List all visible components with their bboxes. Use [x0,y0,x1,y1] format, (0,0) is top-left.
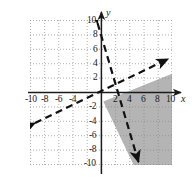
y-tick-label-4: 4 [93,59,97,69]
y-tick-label--6: -6 [89,131,96,141]
y-tick-label-6: 6 [93,45,97,55]
graph-figure: -10 -8 -6 -4 2 4 6 8 10 10 8 6 4 2 -2 -4… [0,0,192,185]
x-tick-label-4: 4 [127,95,131,105]
y-tick-label-2: 2 [93,73,97,83]
x-tick-label--4: -4 [69,95,76,105]
y-tick-label--8: -8 [89,145,96,155]
coordinate-plane-svg [0,0,192,185]
x-tick-label-2: 2 [113,95,117,105]
y-tick-label--4: -4 [89,117,96,127]
x-tick-label--6: -6 [55,95,62,105]
x-tick-label--8: -8 [41,95,48,105]
x-tick-label-10: 10 [166,95,175,105]
y-tick-label-10: 10 [87,16,96,26]
x-axis-label: x [181,94,185,104]
x-tick-label--10: -10 [25,95,37,105]
y-axis-label: y [106,8,110,18]
x-tick-label-8: 8 [155,95,159,105]
y-tick-label--2: -2 [89,102,96,112]
y-tick-label-8: 8 [93,30,97,40]
y-tick-label--10: -10 [84,159,96,169]
x-tick-label-6: 6 [141,95,145,105]
